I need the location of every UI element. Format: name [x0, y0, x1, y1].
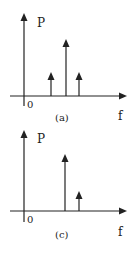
- spectrum-diagrams: P 0 f (a) P 0 f (c): [0, 0, 138, 256]
- x-axis-label: f: [118, 109, 124, 123]
- y-axis-arrow-icon: [21, 130, 28, 138]
- x-axis-label: f: [118, 225, 124, 239]
- diagram-c: P 0 f (c): [10, 130, 127, 240]
- origin-label: 0: [27, 214, 33, 225]
- spike-1-arrow-icon: [48, 72, 55, 80]
- diagram-a: P 0 f (a): [10, 13, 127, 123]
- y-axis-arrow-icon: [21, 13, 28, 21]
- spike-3-arrow-icon: [76, 191, 83, 199]
- caption-c: (c): [55, 229, 69, 240]
- x-axis-arrow-icon: [119, 208, 127, 215]
- spike-2-arrow-icon: [63, 39, 70, 47]
- spike-2-arrow-icon: [62, 154, 69, 162]
- origin-label: 0: [27, 99, 33, 110]
- spike-3-arrow-icon: [76, 72, 83, 80]
- x-axis-arrow-icon: [119, 93, 127, 100]
- y-axis-label: P: [37, 16, 45, 30]
- y-axis-label: P: [37, 132, 45, 146]
- caption-a: (a): [55, 112, 69, 123]
